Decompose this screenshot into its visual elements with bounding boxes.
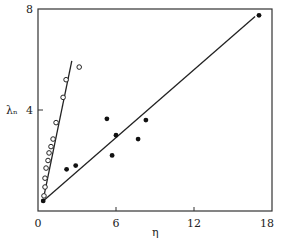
open-data-point <box>61 95 66 100</box>
fit-line <box>43 17 255 201</box>
filled-data-point <box>257 13 262 18</box>
x-tick-label: 12 <box>187 217 201 230</box>
x-tick-label: 6 <box>113 217 120 230</box>
x-tick-label: 18 <box>260 217 274 230</box>
filled-data-point <box>73 163 78 168</box>
y-tick-label: 4 <box>26 104 33 117</box>
open-data-point <box>43 176 48 181</box>
filled-data-point <box>110 153 115 158</box>
open-data-point <box>64 77 69 82</box>
open-data-point <box>49 144 54 149</box>
x-axis-label: η <box>152 226 159 239</box>
open-data-point <box>77 65 82 70</box>
x-tick-label: 0 <box>35 217 42 230</box>
filled-data-point <box>64 167 69 172</box>
open-data-point <box>47 151 52 156</box>
y-axis-label: λₙ <box>6 104 18 117</box>
fit-lines <box>43 17 255 201</box>
open-data-point <box>46 158 51 163</box>
scatter-chart: 06121848 λₙ η <box>0 0 282 241</box>
open-data-point <box>44 166 49 171</box>
plot-frame <box>38 9 272 211</box>
open-data-point <box>42 194 47 199</box>
open-data-point <box>51 137 56 142</box>
filled-data-point <box>114 133 119 138</box>
open-data-point <box>54 120 59 125</box>
filled-data-point <box>136 137 141 142</box>
filled-data-point <box>144 118 149 123</box>
y-tick-label: 8 <box>26 3 33 16</box>
filled-data-point <box>41 199 46 204</box>
filled-data-point <box>105 116 110 121</box>
open-data-point <box>43 185 48 190</box>
axis-ticks: 06121848 <box>26 3 274 230</box>
